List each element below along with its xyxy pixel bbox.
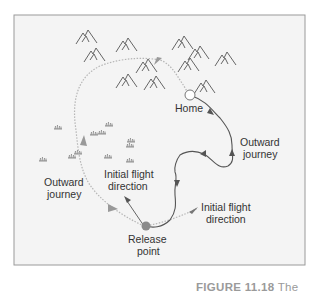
label-initial-left: Initial flight: [104, 168, 154, 180]
label-release: Release: [128, 233, 167, 245]
label-outward-left: journey: [46, 188, 82, 200]
label-outward-right: Outward: [240, 136, 280, 148]
home-marker: [185, 90, 195, 100]
caption-text: The: [278, 281, 299, 293]
label-outward-left: Outward: [44, 176, 84, 188]
label-initial-right: Initial flight: [201, 201, 251, 213]
figure-number: FIGURE 11.18: [196, 281, 274, 293]
label-home: Home: [175, 102, 203, 114]
release-marker: [142, 222, 151, 231]
label-outward-right: journey: [242, 148, 278, 160]
homing-diagram: Home Outward journey Outward journey Ini…: [0, 0, 315, 300]
label-initial-left: direction: [108, 180, 148, 192]
label-initial-right: direction: [206, 213, 246, 225]
label-release: point: [137, 245, 160, 257]
figure-caption: FIGURE 11.18 The: [196, 281, 298, 293]
